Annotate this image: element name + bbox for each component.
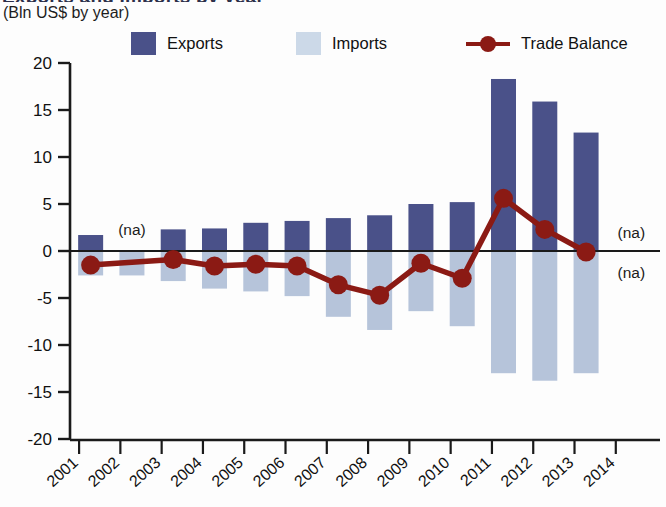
bar-exports (367, 215, 392, 251)
trade-balance-point (411, 254, 430, 273)
y-axis-tick-label: -15 (27, 383, 52, 402)
x-axis-tick-label: 2007 (291, 454, 329, 491)
x-axis-tick-label: 2005 (208, 454, 246, 491)
x-axis-tick-label: 2011 (457, 454, 494, 490)
trade-balance-point (288, 257, 307, 276)
trade-balance-point (329, 275, 348, 294)
x-axis-tick-label: 2002 (85, 454, 123, 491)
trade-balance-point (246, 255, 265, 274)
bar-exports (161, 229, 186, 251)
trade-balance-point (164, 250, 183, 269)
x-axis-tick-label: 2006 (250, 454, 288, 491)
plot-area: 20151050-5-10-15-20200120022003200420052… (0, 0, 666, 507)
bar-exports (450, 202, 475, 251)
bar-exports (243, 223, 268, 251)
bar-exports (78, 235, 103, 251)
y-axis-tick-label: 10 (33, 148, 52, 167)
trade-balance-point (370, 286, 389, 305)
bar-exports (202, 228, 227, 251)
bar-imports (574, 251, 599, 373)
trade-balance-point (577, 242, 596, 261)
y-axis-tick-label: -20 (27, 430, 52, 449)
y-axis-tick-label: 5 (43, 195, 52, 214)
x-axis-tick-label: 2008 (332, 454, 370, 491)
trade-balance-point (205, 257, 224, 276)
trade-balance-point (535, 220, 554, 239)
y-axis-tick-label: -5 (37, 289, 52, 308)
x-axis-tick-label: 2013 (539, 454, 577, 491)
bar-exports (285, 221, 310, 251)
trade-balance-point (494, 189, 513, 208)
y-axis-tick-label: 20 (33, 54, 52, 73)
bar-imports (491, 251, 516, 373)
bar-imports (532, 251, 557, 381)
y-axis-tick-label: 0 (43, 242, 52, 261)
x-axis-tick-label: 2001 (43, 454, 81, 491)
x-axis-tick-label: 2010 (415, 454, 453, 491)
y-axis-tick-label: 15 (33, 101, 52, 120)
trade-balance-point (81, 256, 100, 275)
bar-exports (491, 79, 516, 251)
na-label-2014-imports: (na) (618, 264, 646, 281)
chart-canvas: 20151050-5-10-15-20200120022003200420052… (0, 0, 666, 507)
na-label-2002-exports: (na) (118, 221, 146, 238)
x-axis-tick-label: 2003 (126, 454, 164, 491)
x-axis-tick-label: 2009 (374, 454, 412, 491)
chart-figure: Exports and Imports by year (Bln US$ by … (0, 0, 666, 507)
x-axis-tick-label: 2004 (167, 454, 205, 491)
x-axis-tick-label: 2012 (497, 454, 535, 491)
bar-exports (574, 133, 599, 251)
x-axis-tick-label: 2014 (580, 454, 618, 491)
trade-balance-point (453, 269, 472, 288)
bar-exports (408, 204, 433, 251)
bar-exports (326, 218, 351, 251)
na-label-2014-exports: (na) (618, 224, 646, 241)
y-axis-tick-label: -10 (27, 336, 52, 355)
